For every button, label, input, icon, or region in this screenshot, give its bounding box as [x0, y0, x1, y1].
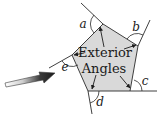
angle-label-a: a	[79, 17, 86, 31]
angle-label-d: d	[96, 95, 104, 109]
center-label-line1: Exterior	[78, 45, 133, 60]
angle-arc-a	[90, 15, 94, 33]
angle-arc-b	[127, 33, 143, 39]
center-label-line2: Angles	[81, 61, 127, 76]
angle-label-e: e	[61, 60, 68, 74]
angle-label-b: b	[132, 20, 140, 34]
big-pointer-arrow-icon	[5, 72, 55, 87]
exterior-angles-diagram: Exterior Angles a b c d e	[0, 0, 160, 117]
angle-label-c: c	[142, 74, 149, 88]
